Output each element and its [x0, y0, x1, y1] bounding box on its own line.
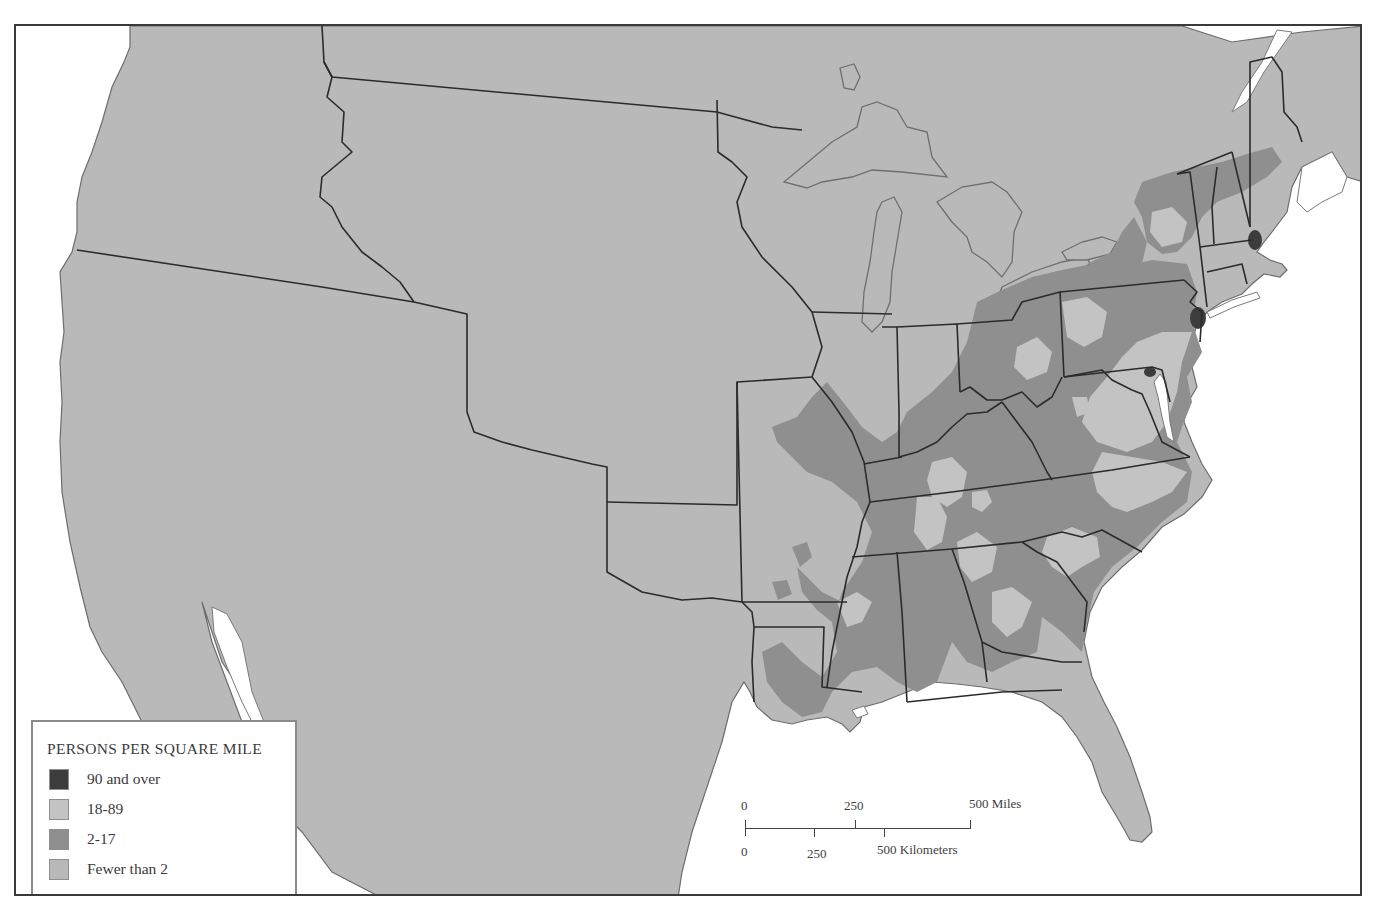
- legend-label: 2-17: [87, 830, 115, 848]
- scale-miles-500: 500 Miles: [969, 796, 1021, 812]
- legend-item-90-and-over: 90 and over: [49, 768, 160, 790]
- scale-tick: [970, 820, 971, 829]
- scale-km-500: 500 Kilometers: [877, 842, 958, 858]
- legend-title: PERSONS PER SQUARE MILE: [47, 740, 262, 758]
- legend: PERSONS PER SQUARE MILE 90 and over 18-8…: [31, 720, 297, 896]
- legend-item-2-17: 2-17: [49, 828, 115, 850]
- scale-km-250: 250: [807, 846, 827, 862]
- scale-bar: 0 250 500 Miles 0 250 500 Kilometers: [737, 794, 1037, 864]
- scale-tick: [855, 820, 856, 829]
- legend-item-18-89: 18-89: [49, 798, 123, 820]
- scale-tick: [814, 828, 815, 837]
- new-york-area: [1190, 307, 1206, 329]
- scale-miles-250: 250: [844, 798, 864, 814]
- scale-tick: [745, 820, 746, 836]
- scale-miles-0: 0: [741, 798, 748, 814]
- legend-item-fewer-than-2: Fewer than 2: [49, 858, 168, 880]
- scale-km-0: 0: [741, 844, 748, 860]
- legend-label: Fewer than 2: [87, 860, 168, 878]
- legend-label: 18-89: [87, 800, 123, 818]
- legend-swatch: [49, 829, 69, 850]
- legend-swatch: [49, 769, 69, 790]
- legend-swatch: [49, 859, 69, 880]
- scale-tick: [884, 828, 885, 837]
- map-frame: PERSONS PER SQUARE MILE 90 and over 18-8…: [14, 24, 1362, 896]
- scale-line: [745, 828, 971, 829]
- legend-swatch: [49, 799, 69, 820]
- legend-label: 90 and over: [87, 770, 160, 788]
